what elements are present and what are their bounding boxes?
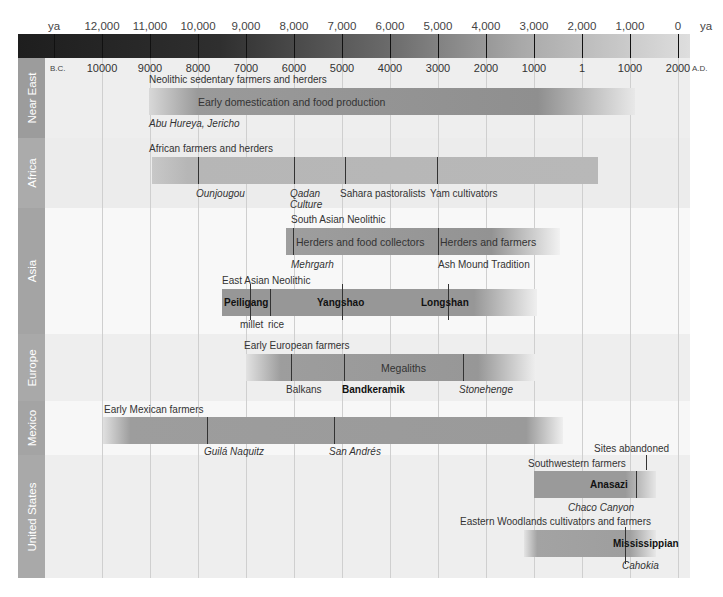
asia-crop-rice: rice <box>268 319 284 330</box>
asia-east-peiligang: Peiligang <box>224 297 268 308</box>
ya-tick: 2,000 <box>568 20 597 32</box>
grid-line <box>294 58 295 578</box>
scale-tick <box>438 34 439 58</box>
asia-east-yangshao: Yangshao <box>317 297 364 308</box>
calendar-tick: 2000 <box>474 62 498 74</box>
scale-tick <box>678 34 679 58</box>
calendar-tick: 5000 <box>330 62 354 74</box>
us-anasazi-label: Anasazi <box>590 479 628 490</box>
ya-tick: 0 <box>675 20 681 32</box>
mexico-marker-san-andres: San Andrés <box>329 446 381 457</box>
marker-yam <box>437 157 438 184</box>
grid-line <box>198 58 199 578</box>
stonehenge-marker <box>463 354 464 381</box>
grid-line <box>678 58 679 578</box>
scale-tick <box>54 34 55 58</box>
ya-tick: 7,000 <box>328 20 357 32</box>
ya-tick: 11,000 <box>133 20 167 32</box>
near-east-title: Neolithic sedentary farmers and herders <box>149 74 327 85</box>
africa-marker-culture: Culture <box>290 199 322 210</box>
europe-marker-balkans: Balkans <box>286 384 322 395</box>
mexico-bar <box>103 417 563 444</box>
anasazi-marker <box>636 471 637 498</box>
us-sw-title: Southwestern farmers <box>528 458 626 469</box>
scale-tick <box>102 34 103 58</box>
grid-line <box>246 58 247 578</box>
asia-east-longshan: Longshan <box>421 297 469 308</box>
marker-qadan <box>294 157 295 184</box>
scale-tick <box>390 34 391 58</box>
ya-unit-right: ya <box>700 20 712 32</box>
calendar-tick: 4000 <box>378 62 402 74</box>
sites-abandoned-pointer <box>646 455 647 470</box>
asia-south-start <box>293 228 294 255</box>
bandkeramik-marker <box>344 354 345 381</box>
asia-south-seg-2: Herders and farmers <box>440 236 536 248</box>
region-tab-africa: Africa <box>18 138 45 208</box>
region-tab-europe: Europe <box>18 334 45 401</box>
grid-line <box>438 58 439 578</box>
ya-tick: 1,000 <box>616 20 645 32</box>
asia-site-mehrgarh: Mehrgarh <box>291 259 334 270</box>
region-tab-mexico: Mexico <box>18 401 45 455</box>
balkans-marker <box>291 354 292 381</box>
europe-bar-label: Megaliths <box>381 362 426 374</box>
africa-bar <box>152 157 598 184</box>
grid-line <box>486 58 487 578</box>
ad-label: A.D. <box>692 64 708 73</box>
europe-title: Early European farmers <box>244 340 350 351</box>
asia-south-title: South Asian Neolithic <box>291 214 386 225</box>
near-east-bar-label: Early domestication and food production <box>198 96 385 108</box>
scale-tick <box>342 34 343 58</box>
us-cahokia: Cahokia <box>622 560 659 571</box>
calendar-tick: 9000 <box>138 62 162 74</box>
us-sites-abandoned: Sites abandoned <box>594 443 669 454</box>
ya-tick: 12,000 <box>84 20 119 32</box>
ya-tick: 3,000 <box>520 20 549 32</box>
region-tab-united-states: United States <box>18 455 45 578</box>
asia-south-divider <box>438 228 439 255</box>
marker-sahara <box>345 157 346 184</box>
calendar-tick: 2000 <box>666 62 690 74</box>
calendar-tick: 1 <box>579 62 585 74</box>
san-andres-marker <box>334 417 335 444</box>
scale-tick <box>630 34 631 58</box>
scale-tick <box>150 34 151 58</box>
calendar-tick: 7000 <box>234 62 258 74</box>
mexico-title: Early Mexican farmers <box>104 404 203 415</box>
calendar-tick: 10000 <box>87 62 118 74</box>
mexico-marker-guila: Guilá Naquitz <box>204 446 264 457</box>
calendar-tick: 1000 <box>618 62 642 74</box>
asia-crop-millet: millet <box>240 319 263 330</box>
ya-tick: 10,000 <box>180 20 215 32</box>
ya-tick: 4,000 <box>472 20 501 32</box>
region-tab-asia: Asia <box>18 208 45 334</box>
us-ew-title: Eastern Woodlands cultivators and farmer… <box>460 516 651 527</box>
asia-east-title: East Asian Neolithic <box>222 275 310 286</box>
scale-tick <box>246 34 247 58</box>
guila-naquitz-marker <box>207 417 208 444</box>
europe-marker-stonehenge: Stonehenge <box>459 384 513 395</box>
ya-tick: 6,000 <box>376 20 405 32</box>
asia-site-ash-mound: Ash Mound Tradition <box>438 259 530 270</box>
grid-line <box>534 58 535 578</box>
ya-unit-left: ya <box>48 20 60 32</box>
scale-tick <box>582 34 583 58</box>
ya-tick: 9,000 <box>232 20 261 32</box>
marker-ounjougou <box>198 157 199 184</box>
near-east-sites: Abu Hureya, Jericho <box>149 118 240 129</box>
us-chaco-canyon: Chaco Canyon <box>568 502 634 513</box>
ya-tick: 8,000 <box>280 20 309 32</box>
bc-label: B.C. <box>50 64 66 73</box>
africa-marker-yam: Yam cultivators <box>430 188 498 199</box>
asia-south-seg-1: Herders and food collectors <box>296 236 424 248</box>
calendar-tick: 3000 <box>426 62 450 74</box>
scale-tick <box>294 34 295 58</box>
calendar-tick: 6000 <box>282 62 306 74</box>
africa-marker-sahara: Sahara pastoralists <box>340 188 426 199</box>
scale-tick <box>486 34 487 58</box>
africa-title: African farmers and herders <box>149 143 273 154</box>
region-tab-near-east: Near East <box>18 58 45 138</box>
grid-line <box>390 58 391 578</box>
grid-line <box>150 58 151 578</box>
